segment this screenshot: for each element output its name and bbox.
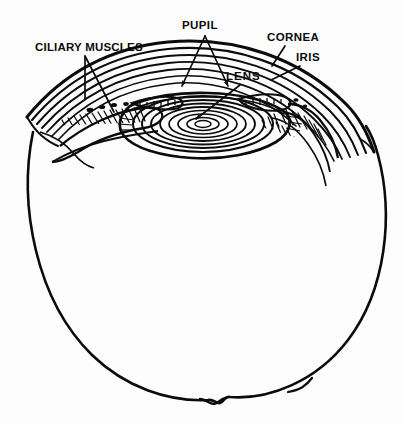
label-cornea: CORNEA [267,32,319,44]
label-ciliary-muscles: CILIARY MUSCLES [35,42,143,54]
leader-lens [196,85,240,119]
iris-right [238,94,338,186]
label-lens: LENS [226,71,261,83]
label-pupil: PUPIL [182,20,218,32]
label-iris: IRIS [296,52,320,64]
eye-anatomy-diagram: CILIARY MUSCLES PUPIL CORNEA IRIS LENS [0,0,402,424]
eyeball-sclera [28,126,386,404]
cornea [27,41,374,161]
lens [120,93,290,159]
eye-diagram-svg [0,0,402,424]
